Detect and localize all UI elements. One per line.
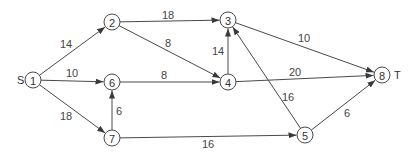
node-label: 8 bbox=[379, 70, 385, 82]
edge-weight-label: 14 bbox=[212, 45, 224, 57]
node-label: 3 bbox=[225, 15, 231, 27]
edge-weight-label: 8 bbox=[165, 37, 171, 49]
edge-weight-label: 18 bbox=[162, 9, 174, 21]
network-diagram: 1410181888614102016166 12345678 S T bbox=[0, 0, 415, 158]
edge-weight-label: 18 bbox=[60, 110, 72, 122]
edge-2-to-4 bbox=[119, 26, 220, 78]
edge-weight-label: 10 bbox=[298, 32, 310, 44]
node-3: 3 bbox=[220, 12, 236, 28]
node-2: 2 bbox=[104, 14, 120, 30]
edge-weight-label: 16 bbox=[202, 138, 214, 150]
edge-weight-label: 16 bbox=[282, 91, 294, 103]
edge-1-to-7 bbox=[39, 85, 105, 133]
node-label: 5 bbox=[302, 130, 308, 142]
edge-weight-label: 6 bbox=[116, 105, 122, 117]
node-7: 7 bbox=[104, 130, 120, 146]
node-4: 4 bbox=[220, 74, 236, 90]
edge-weight-label: 14 bbox=[60, 38, 72, 50]
edge-3-to-8 bbox=[236, 23, 374, 72]
node-6: 6 bbox=[104, 74, 120, 90]
edge-weight-label: 10 bbox=[66, 67, 78, 79]
node-label: 7 bbox=[109, 133, 115, 145]
node-1: 1 bbox=[25, 72, 41, 88]
edge-weight-label: 20 bbox=[289, 66, 301, 78]
source-label: S bbox=[17, 74, 24, 86]
edge-1-to-6 bbox=[41, 80, 104, 82]
node-8: 8 bbox=[374, 67, 390, 83]
node-label: 2 bbox=[109, 17, 115, 29]
node-label: 1 bbox=[30, 75, 36, 87]
edges-layer bbox=[39, 20, 375, 138]
edge-weight-label: 8 bbox=[161, 69, 167, 81]
edge-weight-label: 6 bbox=[344, 107, 350, 119]
sink-label: T bbox=[394, 69, 401, 81]
edge-4-to-8 bbox=[236, 75, 374, 81]
edge-5-to-8 bbox=[311, 80, 375, 130]
node-5: 5 bbox=[297, 127, 313, 143]
nodes-layer: 12345678 bbox=[25, 12, 390, 146]
node-label: 4 bbox=[225, 77, 231, 89]
node-label: 6 bbox=[109, 77, 115, 89]
